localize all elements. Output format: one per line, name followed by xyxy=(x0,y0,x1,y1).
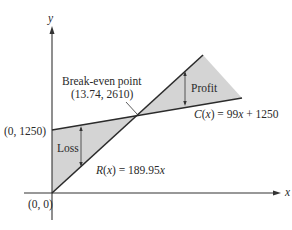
y-axis-label: y xyxy=(48,12,53,25)
x-axis-arrow-icon xyxy=(273,191,281,196)
revenue-function-label: R(x) = 189.95x xyxy=(96,164,165,177)
loss-label: Loss xyxy=(57,142,79,155)
break-even-pointer xyxy=(126,102,137,114)
origin-label: (0, 0) xyxy=(28,198,53,211)
y-intercept-label: (0, 1250) xyxy=(4,125,46,138)
break-even-title: Break-even point xyxy=(62,75,142,88)
x-axis-label: x xyxy=(285,186,290,199)
break-even-coords: (13.74, 2610) xyxy=(71,88,133,101)
y-axis-arrow-icon xyxy=(50,26,55,34)
profit-label: Profit xyxy=(191,82,217,95)
cost-function-label: C(x) = 99x + 1250 xyxy=(194,108,279,121)
